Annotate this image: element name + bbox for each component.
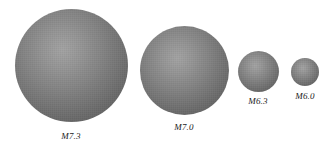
- magnitude-sphere-m70: [140, 26, 229, 115]
- magnitude-sphere-m60: [291, 58, 319, 86]
- sphere-label-m73: M7.3: [31, 131, 111, 141]
- magnitude-sphere-m73: [15, 9, 128, 122]
- magnitude-sphere-m63: [238, 51, 279, 92]
- sphere-label-m60: M6.0: [265, 91, 331, 101]
- magnitude-sphere-figure: M7.3 M7.0 M6.3 M6.0: [0, 0, 331, 156]
- sphere-label-m70: M7.0: [144, 122, 224, 132]
